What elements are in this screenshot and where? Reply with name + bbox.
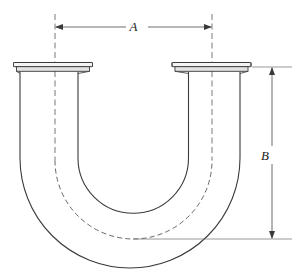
diagram-canvas: A B bbox=[0, 0, 299, 280]
left-flange-face bbox=[14, 63, 93, 67]
right-flange-face bbox=[172, 63, 251, 67]
dimension-a: A bbox=[55, 19, 212, 34]
right-flange-edge bbox=[175, 67, 248, 72]
right-flange bbox=[172, 63, 251, 74]
dimension-a-label: A bbox=[129, 19, 138, 34]
dimension-a-arrow-right bbox=[204, 24, 212, 30]
left-flange bbox=[14, 63, 93, 74]
dimension-b-arrow-bottom bbox=[269, 231, 275, 239]
dimension-a-arrow-left bbox=[55, 24, 63, 30]
u-bend-diagram: A B bbox=[0, 0, 299, 280]
tube-inner-wall bbox=[78, 72, 189, 213]
dimension-b: B bbox=[133, 67, 292, 239]
dimension-b-label: B bbox=[261, 148, 269, 163]
bend-centerline-arc bbox=[55, 161, 212, 239]
left-flange-edge bbox=[17, 67, 90, 72]
dimension-b-arrow-top bbox=[269, 67, 275, 75]
